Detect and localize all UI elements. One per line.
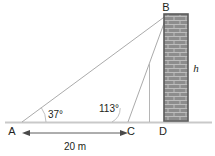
height-variable-label: h bbox=[193, 62, 199, 74]
geometry-diagram: A B C D 37° 113° 20 m h bbox=[0, 0, 215, 156]
point-label-d: D bbox=[159, 125, 167, 137]
dimension-label-20m: 20 m bbox=[64, 141, 86, 152]
point-label-b: B bbox=[162, 1, 169, 13]
point-label-a: A bbox=[8, 125, 16, 137]
angle-label-113: 113° bbox=[99, 103, 119, 114]
point-label-c: C bbox=[127, 125, 135, 137]
diagram-labels-layer: A B C D 37° 113° 20 m h bbox=[0, 0, 215, 156]
angle-label-37: 37° bbox=[48, 109, 63, 120]
